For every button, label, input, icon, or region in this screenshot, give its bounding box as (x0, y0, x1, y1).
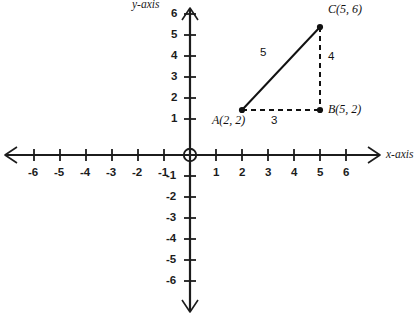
point-b-label: B(5, 2) (328, 103, 361, 115)
graph-canvas (0, 0, 415, 317)
x-tick-label-5: 5 (317, 167, 323, 179)
point-a-label: A(2, 2) (212, 114, 245, 126)
x-tick-label--4: -4 (80, 167, 90, 179)
x-tick-label-4: 4 (291, 167, 297, 179)
point-c-marker (317, 24, 323, 30)
vertical-leg-length-label: 4 (328, 51, 334, 63)
y-tick-label--2: -2 (166, 191, 176, 203)
x-tick-label-2: 2 (239, 167, 245, 179)
y-tick-label-6: 6 (171, 8, 177, 20)
x-tick-label-3: 3 (265, 167, 271, 179)
x-tick-label--2: -2 (132, 167, 142, 179)
x-tick-label-6: 6 (343, 167, 349, 179)
segment-ac (242, 27, 320, 110)
figure-caption (6, 308, 409, 317)
triangle-segments (242, 27, 320, 110)
y-tick-label-1: 1 (171, 113, 177, 125)
horizontal-leg-length-label: 3 (271, 115, 277, 127)
x-tick-label-1: 1 (213, 167, 219, 179)
hypotenuse-length-label: 5 (260, 47, 266, 59)
y-tick-label--6: -6 (166, 275, 176, 287)
x-tick-label--5: -5 (54, 167, 64, 179)
point-c-label: C(5, 6) (328, 3, 362, 15)
y-tick-label--4: -4 (166, 233, 176, 245)
y-tick-label-2: 2 (171, 92, 177, 104)
y-tick-label-4: 4 (171, 50, 177, 62)
y-tick-label--3: -3 (166, 212, 176, 224)
x-tick-label--3: -3 (106, 167, 116, 179)
x-axis-title: x-axis (386, 149, 413, 161)
y-tick-label-5: 5 (171, 29, 177, 41)
y-axis-title: y-axis (132, 0, 159, 11)
y-tick-label--1: -1 (166, 170, 176, 182)
coordinate-plane-figure: -6 -5 -4 -3 -2 -1 1 2 3 4 5 6 6 5 4 3 2 … (0, 0, 415, 317)
y-tick-label--5: -5 (166, 254, 176, 266)
point-b-marker (317, 107, 323, 113)
x-tick-label--6: -6 (28, 167, 38, 179)
y-tick-label-3: 3 (171, 71, 177, 83)
